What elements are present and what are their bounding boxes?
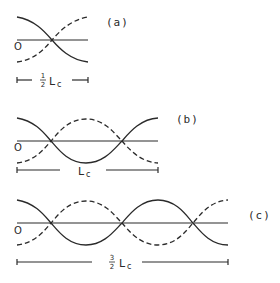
- origin-label: O: [14, 41, 22, 52]
- panel-c: O (c) 3 2 L c: [14, 200, 271, 271]
- panel-label-b: (b): [176, 113, 199, 126]
- fraction-numerator: 1: [41, 72, 45, 80]
- length-symbol: L: [78, 165, 85, 178]
- panel-label-a: (a): [106, 16, 129, 29]
- coupling-length-diagram: O (a) 1 2 L c O (b) L c: [0, 0, 280, 283]
- scale-bar-c: 3 2 L c: [17, 254, 228, 271]
- fraction-denominator: 2: [110, 263, 114, 271]
- scale-bar-b: L c: [17, 165, 158, 179]
- length-subscript: c: [57, 80, 61, 89]
- origin-label: O: [14, 142, 22, 153]
- length-symbol: L: [119, 257, 126, 270]
- panel-label-c: (c): [248, 209, 271, 222]
- origin-label: O: [14, 225, 22, 236]
- length-symbol: L: [49, 75, 56, 88]
- fraction-denominator: 2: [41, 81, 45, 89]
- panel-b: O (b) L c: [14, 113, 199, 179]
- panel-a: O (a) 1 2 L c: [14, 16, 129, 89]
- scale-bar-a: 1 2 L c: [17, 72, 88, 89]
- length-subscript: c: [127, 262, 131, 271]
- fraction-numerator: 3: [110, 254, 114, 262]
- length-subscript: c: [86, 170, 90, 179]
